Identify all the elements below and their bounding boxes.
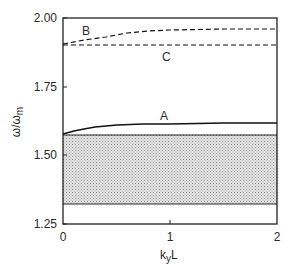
curve-label-c: C [162,50,171,64]
y-axis-label-sub: m [14,107,25,115]
y-tick-label-125: 1.25 [34,217,58,231]
x-axis-label: kyL [160,248,178,264]
y-axis-label-main: ω/ω [9,115,23,137]
x-axis-label-l: L [171,248,178,262]
curve-label-a: A [160,109,168,123]
curve-label-b: B [82,24,90,38]
y-tick-label-150: 1.50 [34,148,58,162]
shaded-band [63,135,277,204]
curve-a [63,123,277,134]
chart: B C A 2.00 1.75 1.50 1.25 0 1 2 kyL ω/ωm [0,0,290,269]
y-axis-label: ω/ωm [9,107,25,137]
x-tick-label-0: 0 [60,230,67,244]
curve-b [63,29,277,44]
y-tick-label-200: 2.00 [34,11,58,25]
y-tick-label-175: 1.75 [34,80,58,94]
x-tick-label-1: 1 [167,230,174,244]
x-tick-label-2: 2 [274,230,281,244]
